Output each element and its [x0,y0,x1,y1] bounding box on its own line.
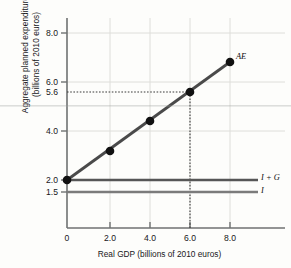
faint-gridlines [67,18,285,228]
axes [67,18,285,228]
plot-canvas [0,0,291,268]
ae-point-2 [146,117,155,126]
series-label-i-plus-g: I + G [261,173,280,182]
x-axis-ticks [110,222,230,228]
ae-point-0 [63,176,72,185]
ae-point-1 [106,147,115,156]
ae-point-4 [226,58,235,67]
series-label-i: I [261,186,264,195]
equilibrium-guides [67,92,190,228]
series-label-ae: AE [236,52,246,61]
y-axis-ticks [61,33,67,192]
x-axis-title: Real GDP (billions of 2010 euros) [0,249,291,259]
aggregate-planned-expenditure-chart: Aggregate planned expenditure (billions … [0,0,291,268]
ae-point-3 [186,88,195,97]
